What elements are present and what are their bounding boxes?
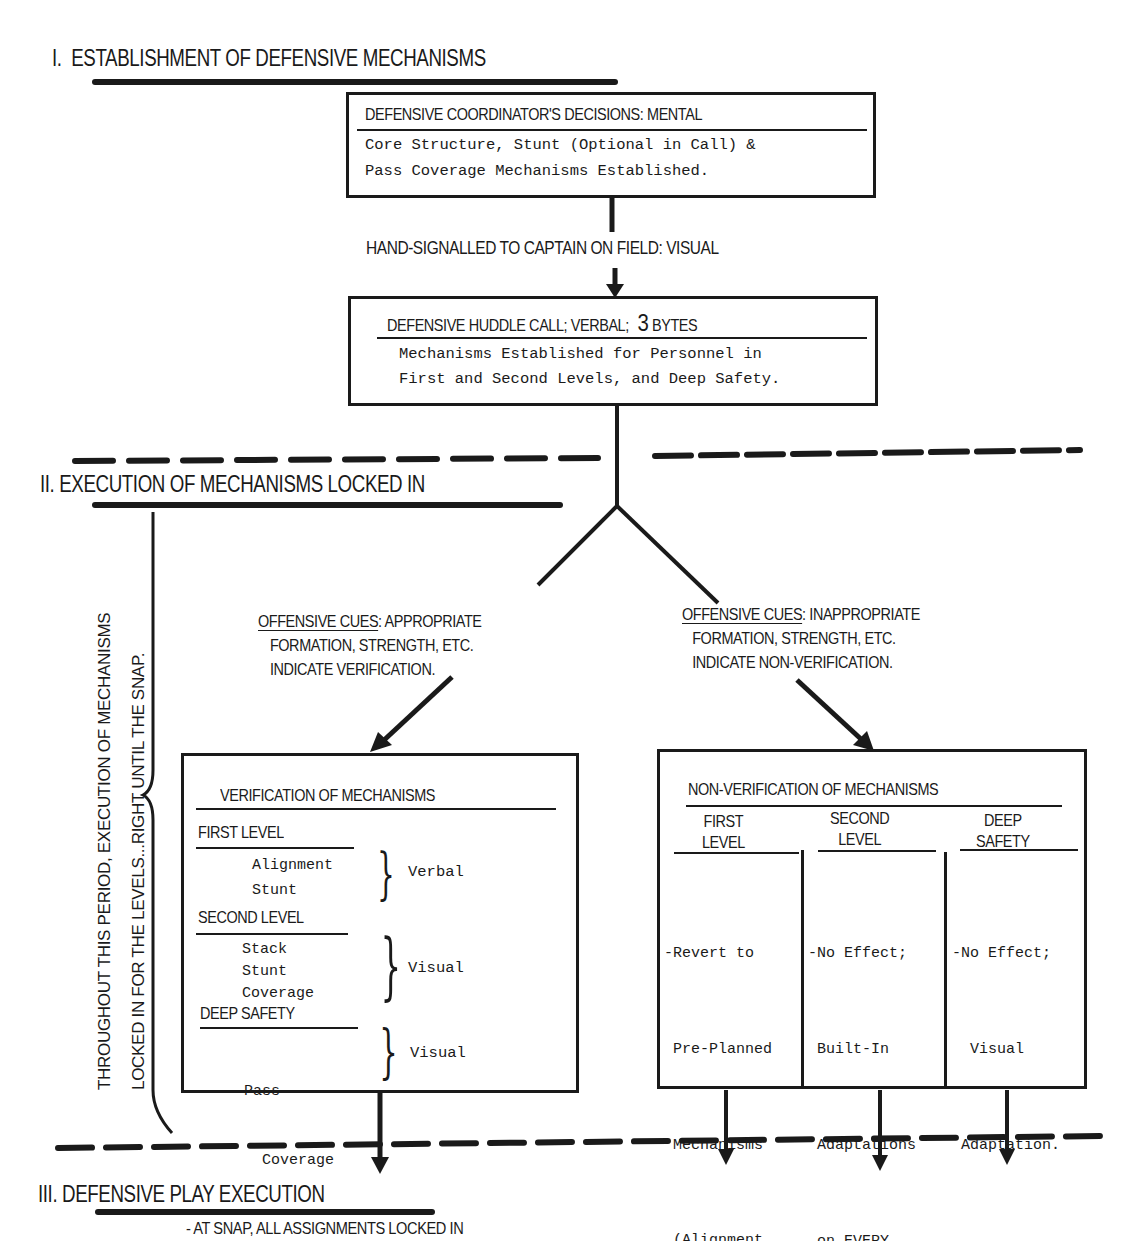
verification-heading: VERIFICATION OF MECHANISMS [220,786,435,806]
separator-dashed-1a [75,458,598,461]
nonverif-col1-body: -Revert to Pre-Planned Mechanisms (Align… [664,874,772,1241]
section3-numeral: III. [38,1180,57,1207]
nonverification-box: NON-VERIFICATION OF MECHANISMS FIRST LEV… [657,749,1087,1089]
huddle-heading: DEFENSIVE HUDDLE CALL; VERBAL; 3 BYTES [387,309,697,337]
huddle-count: 3 [638,309,649,336]
col-line: -Revert to [664,938,772,970]
section3-heading: III. DEFENSIVE PLAY EXECUTION [38,1180,325,1208]
verification-heading-rule [196,808,556,810]
nonverif-col2-body: -No Effect; Built-In Adaptations on EVER… [808,874,916,1241]
col-line: Mechanisms [664,1130,772,1162]
arrow-to-nonverification [797,680,862,740]
arrowhead-icon [853,731,874,751]
verif-item: Pass [244,1080,334,1103]
huddle-unit: BYTES [652,316,697,335]
section2-numeral: II. [40,470,54,497]
brace-icon: } [377,841,395,906]
verif-item: Stunt [242,961,314,983]
section1-title: ESTABLISHMENT OF DEFENSIVE MECHANISMS [71,44,485,71]
coordinator-line-2: Pass Coverage Mechanisms Established. [365,158,709,184]
col-head-line: DEEP [976,810,1030,831]
cue-left-line2: FORMATION, STRENGTH, ETC. [258,634,482,658]
verif-deep-safety-mode: Visual [410,1044,466,1062]
cue-right: OFFENSIVE CUES: INAPPROPRIATE FORMATION,… [682,603,920,675]
section1-numeral: I. [52,44,62,71]
huddle-line-2: First and Second Levels, and Deep Safety… [399,366,780,392]
col-line: on EVERY [808,1226,916,1241]
huddle-line-1: Mechanisms Established for Personnel in [399,341,762,367]
section2-title: EXECUTION OF MECHANISMS LOCKED IN [59,470,425,497]
verif-item: Alignment [252,853,333,878]
col-head-line: SECOND [830,808,889,829]
column-divider [944,852,947,1086]
section1-heading: I. ESTABLISHMENT OF DEFENSIVE MECHANISMS [52,44,486,72]
verif-item: Stack [242,939,314,961]
arrow-to-verification [382,677,452,742]
coordinator-line-1: Core Structure, Stunt (Optional in Call)… [365,132,756,158]
col-head-line: FIRST [702,811,745,832]
verif-second-level-label: SECOND LEVEL [198,908,304,928]
cue-right-label: OFFENSIVE CUES [682,605,802,624]
verif-first-level-mode: Verbal [408,863,464,881]
verif-second-level-rule [196,933,348,935]
cue-left-line3: INDICATE VERIFICATION. [258,658,482,682]
col-line: Adaptation. [952,1130,1060,1162]
brace-icon: } [379,1018,397,1086]
hand-signal-label: HAND-SIGNALLED TO CAPTAIN ON FIELD: VISU… [366,238,719,259]
verif-first-level-label: FIRST LEVEL [198,823,284,843]
col-line: Adaptations [808,1130,916,1162]
nonverif-col2-header: SECOND LEVEL [830,808,889,850]
col-line: Pre-Planned [664,1034,772,1066]
brace-icon: } [381,924,402,1008]
side-note-line-2: LOCKED IN FOR THE LEVELS...RIGHT UNTIL T… [122,570,156,1090]
verif-second-level-items: Stack Stunt Coverage [242,939,314,1005]
coordinator-box: DEFENSIVE COORDINATOR'S DECISIONS: MENTA… [346,92,876,198]
nonverif-heading-rule [686,805,1062,807]
verif-first-level-rule [196,847,354,849]
huddle-box: DEFENSIVE HUDDLE CALL; VERBAL; 3 BYTES M… [348,296,878,406]
cue-left-line1: : APPROPRIATE [378,612,481,631]
branch-right [617,506,718,603]
coordinator-heading-rule [357,129,867,131]
branch-left [538,506,617,585]
nonverif-col2-rule [818,850,936,852]
col-head-line: LEVEL [830,829,889,850]
huddle-heading-text: DEFENSIVE HUDDLE CALL; VERBAL; [387,316,629,335]
side-note-line-1: THROUGHOUT THIS PERIOD, EXECUTION OF MEC… [88,570,122,1090]
verif-item: Coverage [242,983,314,1005]
side-note: THROUGHOUT THIS PERIOD, EXECUTION OF MEC… [88,570,156,1090]
arrowhead-icon [371,1157,389,1174]
col-line: Built-In [808,1034,916,1066]
verif-first-level-items: Alignment Stunt [252,853,333,903]
col-line: -No Effect; [952,938,1060,970]
nonverif-heading: NON-VERIFICATION OF MECHANISMS [688,780,938,800]
section3-note: - AT SNAP, ALL ASSIGNMENTS LOCKED IN [186,1219,463,1239]
cue-left: OFFENSIVE CUES: APPROPRIATE FORMATION, S… [258,610,482,682]
coordinator-heading: DEFENSIVE COORDINATOR'S DECISIONS: MENTA… [365,105,702,125]
col-line: Visual [952,1034,1060,1066]
nonverif-col1-header: FIRST LEVEL [702,811,745,853]
cue-right-line3: INDICATE NON-VERIFICATION. [682,651,920,675]
separator-dashed-1b [655,450,1080,456]
verif-deep-safety-rule [200,1027,358,1029]
nonverif-col1-rule [674,852,799,854]
column-divider [801,850,804,1086]
section2-heading: II. EXECUTION OF MECHANISMS LOCKED IN [40,470,425,498]
verif-item: Coverage [244,1149,334,1172]
cue-right-line1: : INAPPROPRIATE [802,605,920,624]
verification-box: VERIFICATION OF MECHANISMS FIRST LEVEL A… [181,753,579,1093]
section3-title: DEFENSIVE PLAY EXECUTION [62,1180,325,1207]
separator-dashed-2 [58,1136,1100,1148]
cue-left-label: OFFENSIVE CUES [258,612,378,631]
col-line: (Alignment, [664,1230,772,1241]
nonverif-col3-body: -No Effect; Visual Adaptation. [952,874,1060,1226]
arrowhead-icon [370,732,392,752]
verif-second-level-mode: Visual [408,959,464,977]
verif-deep-safety-label: DEEP SAFETY [200,1004,295,1024]
verif-item: Stunt [252,878,333,903]
nonverif-col3-rule [960,849,1078,851]
col-head-line: LEVEL [702,832,745,853]
nonverif-col3-header: DEEP SAFETY [976,810,1030,852]
huddle-heading-rule [377,337,867,339]
col-line: -No Effect; [808,938,916,970]
